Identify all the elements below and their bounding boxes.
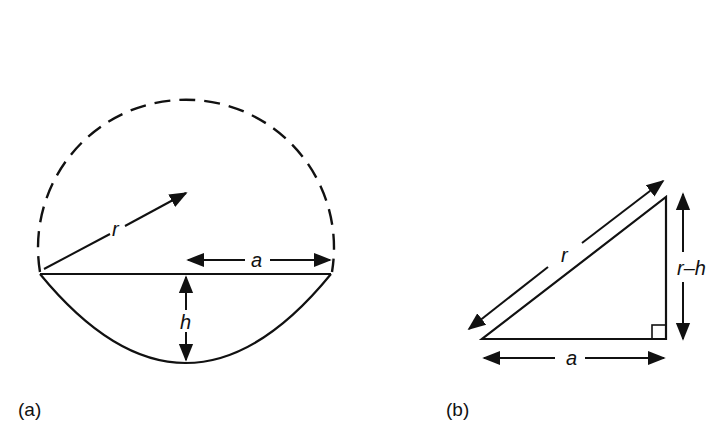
label-a-a: a: [251, 249, 262, 271]
dashed-circle-arc: [38, 100, 334, 272]
caption-a: (a): [18, 399, 41, 420]
caption-b: (b): [446, 399, 469, 420]
radius-arrow-upper: [125, 193, 186, 226]
geometry-figure: r a h (a) r a r–h (b): [0, 0, 723, 444]
r-arrow-upper: [582, 181, 663, 243]
triangle: [482, 197, 666, 339]
right-angle-mark: [652, 325, 666, 339]
label-h-a: h: [180, 311, 191, 333]
panel-b-right-triangle: r a r–h (b): [446, 181, 706, 420]
label-a-b: a: [566, 347, 577, 369]
panel-a-circle-segment: r a h (a): [18, 100, 334, 420]
label-r-b: r: [561, 244, 569, 266]
radius-arrow-lower: [44, 234, 110, 269]
label-r-minus-h: r–h: [677, 257, 706, 279]
label-r-a: r: [112, 218, 120, 240]
